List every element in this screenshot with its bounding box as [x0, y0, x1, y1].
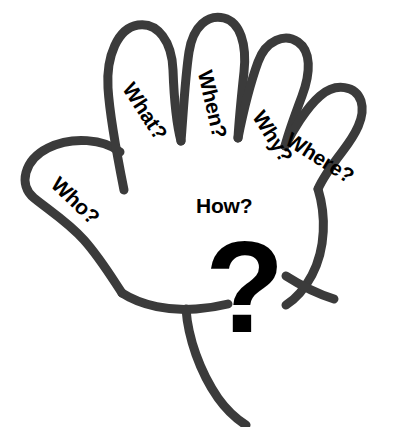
central-question-mark: ? [205, 222, 284, 352]
five-ws-hand-diagram: ? Who? What? When? Why? Where? How? [0, 0, 401, 427]
label-how: How? [196, 195, 252, 216]
thumb-outline [25, 140, 122, 293]
